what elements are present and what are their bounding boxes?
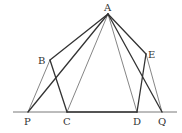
label-d: D: [133, 116, 141, 127]
segment-ab: [50, 14, 108, 60]
segment-ed: [137, 54, 146, 112]
label-c: C: [63, 116, 71, 127]
label-b: B: [38, 55, 45, 66]
label-e: E: [148, 49, 155, 60]
segment-bp: [28, 60, 50, 112]
segment-eq: [146, 54, 162, 112]
label-q: Q: [158, 116, 166, 127]
label-p: P: [24, 116, 31, 127]
segments: [28, 14, 162, 112]
segment-aq: [108, 14, 162, 112]
geometry-diagram: A B E P C D Q: [0, 0, 182, 133]
label-a: A: [103, 2, 112, 13]
segment-ac: [67, 14, 108, 112]
